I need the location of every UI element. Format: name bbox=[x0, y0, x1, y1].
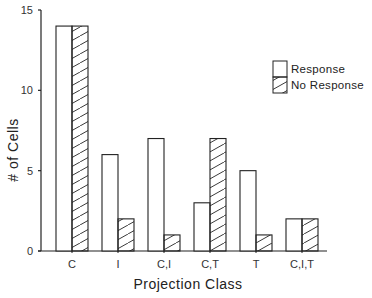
y-axis-label: # of Cells bbox=[5, 118, 21, 181]
no-response-bar bbox=[118, 219, 134, 251]
bar-group-c-i-t bbox=[286, 219, 318, 251]
response-bar bbox=[148, 139, 164, 251]
legend-swatch-response bbox=[273, 61, 287, 77]
y-tick-label: 15 bbox=[21, 4, 33, 16]
bars bbox=[56, 26, 318, 251]
response-bar bbox=[286, 219, 302, 251]
x-tick-label: C bbox=[68, 258, 76, 270]
x-tick-label: C,T bbox=[201, 258, 219, 270]
legend-label-no-response: No Response bbox=[291, 79, 364, 91]
bar-group-c bbox=[56, 26, 88, 251]
y-tick-label: 5 bbox=[27, 165, 33, 177]
no-response-bar bbox=[210, 139, 226, 251]
x-tick-label: I bbox=[116, 258, 119, 270]
bar-group-c-i bbox=[148, 139, 180, 251]
x-tick-label: T bbox=[253, 258, 260, 270]
no-response-bar bbox=[164, 235, 180, 251]
legend: ResponseNo Response bbox=[273, 61, 364, 93]
no-response-bar bbox=[256, 235, 272, 251]
response-bar bbox=[102, 155, 118, 251]
response-bar bbox=[194, 203, 210, 251]
bar-group-i bbox=[102, 155, 134, 251]
no-response-bar bbox=[72, 26, 88, 251]
x-tick-label: C,I,T bbox=[290, 258, 314, 270]
legend-swatch-no-response bbox=[273, 77, 287, 93]
bar-group-t bbox=[240, 171, 272, 251]
no-response-bar bbox=[302, 219, 318, 251]
legend-label-response: Response bbox=[291, 63, 345, 75]
y-tick-label: 10 bbox=[21, 84, 33, 96]
response-bar bbox=[240, 171, 256, 251]
x-axis-label: Projection Class bbox=[133, 276, 242, 292]
response-bar bbox=[56, 26, 72, 251]
bar-group-c-t bbox=[194, 139, 226, 251]
y-tick-label: 0 bbox=[27, 245, 33, 257]
bar-chart: 051015CIC,IC,TTC,I,TProjection Class# of… bbox=[0, 0, 372, 298]
x-tick-label: C,I bbox=[157, 258, 171, 270]
